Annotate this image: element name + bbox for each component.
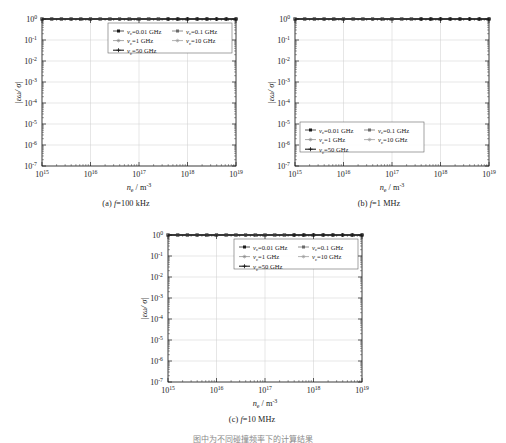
- legend-label-4: νc=50 GHz: [253, 263, 283, 272]
- svg-text:10-5: 10-5: [277, 119, 290, 129]
- svg-text:1015: 1015: [35, 169, 49, 179]
- legend-a: νc=0.01 GHzνc=0.1 GHzνc=1 GHzνc=10 GHzνc…: [108, 23, 232, 56]
- svg-text:1016: 1016: [210, 385, 224, 395]
- svg-text:100: 100: [26, 14, 37, 24]
- x-axis-label: ne / m-3: [253, 398, 278, 409]
- legend-label-4: νc=50 GHz: [127, 47, 157, 56]
- svg-text:1018: 1018: [181, 169, 195, 179]
- plot-svg-b: 1015101610171018101910010-110-210-310-41…: [261, 6, 497, 198]
- svg-text:1017: 1017: [258, 385, 272, 395]
- legend-b: νc=0.01 GHzνc=0.1 GHzνc=1 GHzνc=10 GHzνc…: [300, 122, 424, 155]
- panel-c-caption-label: (c): [229, 415, 238, 424]
- svg-text:1019: 1019: [482, 169, 496, 179]
- svg-text:10-3: 10-3: [150, 293, 163, 303]
- svg-text:10-1: 10-1: [277, 35, 290, 45]
- svg-text:1019: 1019: [355, 385, 369, 395]
- svg-text:10-4: 10-4: [150, 314, 163, 324]
- panel-b-caption-label: (b): [358, 199, 368, 208]
- panel-a: 1015101610171018101910010-110-210-310-41…: [8, 6, 244, 208]
- panel-c-plot: 1015101610171018101910010-110-210-310-41…: [134, 222, 370, 414]
- svg-text:100: 100: [152, 230, 163, 240]
- svg-text:100: 100: [279, 14, 290, 24]
- panel-b-caption: (b) f=1 MHz: [261, 199, 497, 208]
- svg-text:10-6: 10-6: [24, 140, 37, 150]
- svg-text:10-2: 10-2: [24, 56, 37, 66]
- svg-text:10-1: 10-1: [150, 251, 163, 261]
- svg-text:10-2: 10-2: [277, 56, 290, 66]
- panel-b-caption-value: =1 MHz: [372, 199, 400, 208]
- panel-a-caption-value: =100 kHz: [116, 199, 149, 208]
- x-axis-label: ne / m-3: [127, 182, 152, 193]
- panel-a-caption-label: (a): [102, 199, 111, 208]
- plot-svg-a: 1015101610171018101910010-110-210-310-41…: [8, 6, 244, 198]
- svg-text:10-2: 10-2: [150, 272, 163, 282]
- panel-a-plot: 1015101610171018101910010-110-210-310-41…: [8, 6, 244, 198]
- figure-bottom-note: 图中为不同碰撞频率下的计算结果: [0, 433, 506, 443]
- svg-text:10-6: 10-6: [277, 140, 290, 150]
- svg-text:1018: 1018: [434, 169, 448, 179]
- panel-b-plot: 1015101610171018101910010-110-210-310-41…: [261, 6, 497, 198]
- panel-a-caption: (a) f=100 kHz: [8, 199, 244, 208]
- y-axis-label: |εω/ σ|: [14, 81, 23, 103]
- svg-text:1016: 1016: [337, 169, 351, 179]
- svg-text:10-5: 10-5: [24, 119, 37, 129]
- plot-svg-c: 1015101610171018101910010-110-210-310-41…: [134, 222, 370, 414]
- panel-c: 1015101610171018101910010-110-210-310-41…: [134, 222, 370, 424]
- svg-text:10-1: 10-1: [24, 35, 37, 45]
- y-axis-label: |εω/ σ|: [140, 297, 149, 319]
- svg-text:10-6: 10-6: [150, 356, 163, 366]
- legend-label-4: νc=50 GHz: [319, 146, 349, 155]
- svg-text:1015: 1015: [288, 169, 302, 179]
- svg-text:1018: 1018: [307, 385, 321, 395]
- svg-text:1016: 1016: [84, 169, 98, 179]
- svg-text:1019: 1019: [229, 169, 243, 179]
- svg-text:1015: 1015: [161, 385, 175, 395]
- svg-text:10-3: 10-3: [24, 77, 37, 87]
- panel-c-caption-value: =10 MHz: [243, 415, 275, 424]
- panel-b: 1015101610171018101910010-110-210-310-41…: [261, 6, 497, 208]
- svg-text:10-4: 10-4: [277, 98, 290, 108]
- legend-c: νc=0.01 GHzνc=0.1 GHzνc=1 GHzνc=10 GHzνc…: [234, 239, 358, 272]
- svg-text:1017: 1017: [132, 169, 146, 179]
- svg-text:1017: 1017: [385, 169, 399, 179]
- svg-text:10-4: 10-4: [24, 98, 37, 108]
- x-axis-label: ne / m-3: [380, 182, 405, 193]
- svg-text:10-5: 10-5: [150, 335, 163, 345]
- svg-text:10-3: 10-3: [277, 77, 290, 87]
- tick-labels: 1015101610171018101910010-110-210-310-41…: [277, 14, 496, 179]
- panel-c-caption: (c) f=10 MHz: [134, 415, 370, 424]
- y-axis-label: |εω/ σ|: [267, 81, 276, 103]
